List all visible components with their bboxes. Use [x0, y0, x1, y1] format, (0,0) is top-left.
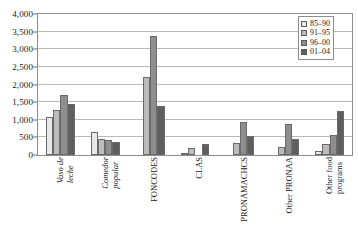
- x-axis-labels: Vaso delecheComedorpopularFONCODESCLASPR…: [38, 157, 352, 243]
- bar: [143, 77, 150, 155]
- y-axis-tick-mark: [33, 66, 37, 67]
- x-axis-label-line: popular: [110, 157, 120, 189]
- y-axis-tick-label: 2,000: [12, 80, 33, 89]
- legend-swatch-icon: [301, 21, 307, 27]
- x-axis-label: Other foodprograms: [325, 157, 344, 194]
- legend-label: 91–95: [310, 29, 330, 37]
- bar-chart: 05001,0001,5002,0002,5003,0003,5004,000 …: [0, 0, 358, 243]
- x-axis-label-line: Comedor: [101, 157, 111, 189]
- y-axis-tick-label: 500: [19, 133, 33, 142]
- bar: [68, 104, 75, 155]
- bar: [181, 153, 188, 155]
- y-axis: 05001,0001,5002,0002,5003,0003,5004,000: [0, 13, 33, 156]
- bar-group: [83, 14, 128, 155]
- bar: [60, 95, 67, 155]
- legend-item[interactable]: 01–04: [301, 48, 330, 58]
- bar: [202, 144, 209, 155]
- x-axis-label: CLAS: [195, 157, 204, 179]
- bar-group: [217, 14, 262, 155]
- bar: [112, 142, 119, 155]
- legend-item[interactable]: 85–90: [301, 19, 330, 29]
- bar: [292, 139, 299, 155]
- legend-label: 96–00: [310, 39, 330, 47]
- y-axis-tick-mark: [33, 31, 37, 32]
- bar: [330, 135, 337, 155]
- x-axis-label: FONCODES: [150, 157, 159, 202]
- y-axis-tick-label: 1,000: [12, 115, 33, 124]
- bar: [322, 144, 329, 155]
- y-axis-tick-label: 3,500: [12, 27, 33, 36]
- bar: [233, 143, 240, 155]
- legend-item[interactable]: 96–00: [301, 38, 330, 48]
- bar: [285, 124, 292, 155]
- legend: 85–9091–9596–0001–04: [298, 16, 334, 60]
- x-axis-label-line: Other PRONAA: [285, 157, 294, 213]
- y-axis-tick-label: 4,000: [12, 10, 33, 19]
- x-axis-label-line: FONCODES: [150, 157, 159, 202]
- legend-label: 85–90: [310, 20, 330, 28]
- y-axis-tick-label: 1,500: [12, 98, 33, 107]
- bar: [247, 136, 254, 155]
- bar: [315, 151, 322, 155]
- x-axis-label: Comedorpopular: [101, 157, 120, 189]
- bar-group: [128, 14, 173, 155]
- y-axis-tick-mark: [33, 49, 37, 50]
- y-axis-tick-mark: [33, 14, 37, 15]
- x-axis-label-line: leche: [65, 157, 75, 183]
- y-axis-tick-mark: [33, 137, 37, 138]
- legend-label: 01–04: [310, 48, 330, 56]
- bar: [150, 36, 157, 155]
- x-axis-label-line: Vaso de: [56, 157, 66, 183]
- bar: [188, 148, 195, 155]
- y-axis-tick-mark: [33, 155, 37, 156]
- x-axis-label-line: PRONAMACHCS: [240, 157, 249, 222]
- x-axis-label: Vaso deleche: [56, 157, 75, 183]
- bar: [98, 139, 105, 155]
- y-axis-tick-label: 2,500: [12, 62, 33, 71]
- bar: [278, 147, 285, 155]
- bar-group: [38, 14, 83, 155]
- bar: [337, 111, 344, 155]
- legend-swatch-icon: [301, 30, 307, 36]
- bar: [46, 117, 53, 155]
- bar: [157, 106, 164, 155]
- legend-swatch-icon: [301, 40, 307, 46]
- bar-group: [173, 14, 218, 155]
- y-axis-tick-mark: [33, 102, 37, 103]
- x-axis-label-line: programs: [335, 157, 345, 194]
- bar: [91, 132, 98, 155]
- y-axis-tick-label: 3,000: [12, 45, 33, 54]
- legend-item[interactable]: 91–95: [301, 29, 330, 39]
- x-axis-label: PRONAMACHCS: [240, 157, 249, 222]
- legend-swatch-icon: [301, 49, 307, 55]
- x-axis-label: Other PRONAA: [285, 157, 294, 213]
- y-axis-tick-mark: [33, 119, 37, 120]
- y-axis-tick-mark: [33, 84, 37, 85]
- x-axis-label-line: CLAS: [195, 157, 204, 179]
- bar: [240, 122, 247, 155]
- bar: [53, 110, 60, 155]
- bar: [105, 140, 112, 155]
